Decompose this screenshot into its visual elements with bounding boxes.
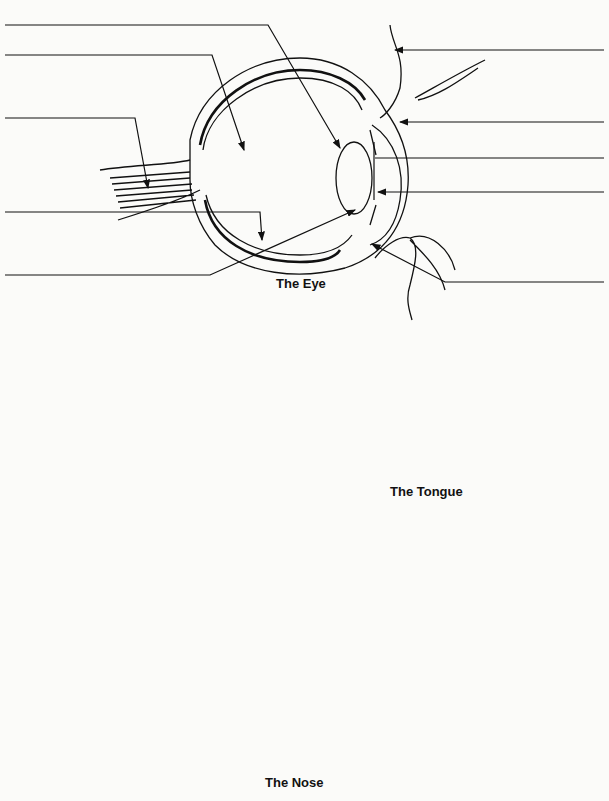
label-line-eye-2 (5, 55, 244, 150)
eye-muscle-top (380, 25, 485, 118)
label-line-eye-5 (5, 210, 355, 275)
optic-nerve (100, 160, 200, 220)
eye-iris (370, 130, 376, 225)
label-line-eye-10 (372, 244, 604, 282)
eye-caption: The Eye (276, 276, 326, 291)
nose-caption: The Nose (265, 775, 324, 790)
label-line-eye-1 (5, 25, 340, 148)
eye-inner-wall (203, 78, 362, 255)
eye-muscle-bottom (375, 236, 455, 320)
eye-sclera (190, 58, 408, 274)
diagram-canvas (0, 0, 609, 801)
tongue-caption: The Tongue (390, 484, 463, 499)
label-line-eye-3 (5, 118, 148, 188)
eye-leader-lines (5, 25, 604, 282)
eye-choroid (200, 70, 365, 145)
eye-lens (336, 142, 372, 214)
